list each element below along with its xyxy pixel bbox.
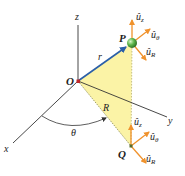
p-ur-label: ûR <box>146 46 156 59</box>
x-axis <box>13 81 78 143</box>
p-uz-label: ûz <box>136 11 144 24</box>
cylindrical-coordinates-diagram: z x y O P Q r⃗ R θ ûz ûθ ûR ûz ûθ ûR <box>0 0 185 176</box>
theta-arc <box>42 116 106 126</box>
p-utheta-label: ûθ <box>151 29 160 42</box>
q-utheta-label: ûθ <box>150 131 159 144</box>
position-vector-label: r⃗ <box>98 51 110 62</box>
z-axis-label: z <box>74 11 79 22</box>
point-p-label: P <box>119 32 126 44</box>
q-uz-label: ûz <box>134 116 142 129</box>
point-q-marker <box>130 145 133 148</box>
point-p-ball <box>127 38 137 48</box>
origin-marker <box>77 80 81 84</box>
origin-label: O <box>66 75 74 87</box>
point-q-label: Q <box>118 148 126 160</box>
q-ur-label: ûR <box>146 153 156 166</box>
x-axis-label: x <box>3 143 9 154</box>
y-axis-label: y <box>167 115 173 126</box>
radius-label: R <box>102 102 109 113</box>
theta-label: θ <box>71 127 76 138</box>
